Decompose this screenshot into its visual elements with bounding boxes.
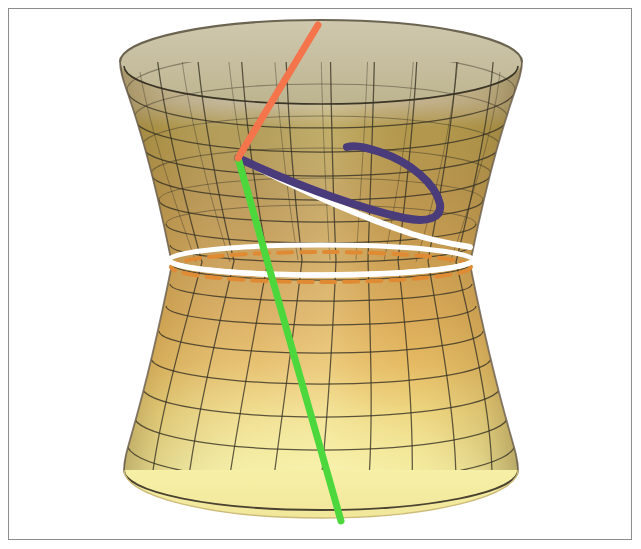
figure-root: x^2 + y^2 - z^2 = 1 [0,0,641,549]
hyperboloid-scene [0,0,641,549]
